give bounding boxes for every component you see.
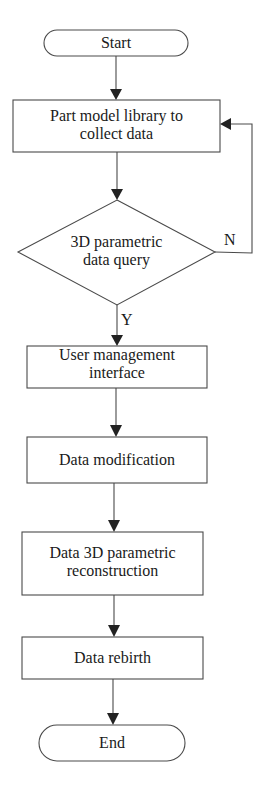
arrowhead-icon bbox=[107, 713, 119, 725]
reconstruction-label-line1: Data 3D parametric bbox=[22, 544, 203, 562]
data-modification-label: Data modification bbox=[27, 451, 207, 469]
user-management-label: User management interface bbox=[27, 346, 207, 382]
yes-branch-label: Y bbox=[121, 312, 133, 328]
data-rebirth-label: Data rebirth bbox=[22, 649, 203, 667]
arrowhead-icon bbox=[111, 189, 123, 200]
collect-data-label-line1: Part model library to bbox=[13, 107, 220, 125]
arrowhead-icon bbox=[220, 118, 231, 130]
arrowhead-icon bbox=[108, 625, 120, 637]
query-label: 3D parametric data query bbox=[18, 233, 215, 269]
start-label: Start bbox=[44, 34, 188, 52]
user-management-label-line1: User management bbox=[27, 346, 207, 364]
arrowhead-icon bbox=[110, 89, 122, 100]
reconstruction-label-line2: reconstruction bbox=[22, 562, 203, 580]
arrowhead-icon bbox=[110, 425, 122, 437]
arrowhead-icon bbox=[111, 335, 123, 346]
arrowhead-icon bbox=[108, 520, 120, 532]
query-label-line2: data query bbox=[18, 251, 215, 269]
user-management-label-line2: interface bbox=[27, 364, 207, 382]
collect-data-label: Part model library to collect data bbox=[13, 107, 220, 143]
query-label-line1: 3D parametric bbox=[18, 233, 215, 251]
end-label: End bbox=[39, 734, 185, 752]
collect-data-label-line2: collect data bbox=[13, 125, 220, 143]
reconstruction-label: Data 3D parametric reconstruction bbox=[22, 544, 203, 580]
no-branch-label: N bbox=[224, 232, 236, 248]
